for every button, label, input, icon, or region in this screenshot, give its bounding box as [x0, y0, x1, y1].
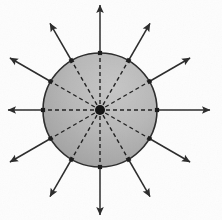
boundary-marker — [155, 108, 159, 112]
center-point-marker — [95, 105, 105, 115]
diagram-canvas: Radial field lines emanating from a poin… — [0, 0, 222, 220]
boundary-marker — [98, 51, 102, 55]
boundary-marker — [41, 108, 45, 112]
boundary-marker — [98, 165, 102, 169]
radial-field-diagram: Radial field lines emanating from a poin… — [0, 0, 222, 220]
